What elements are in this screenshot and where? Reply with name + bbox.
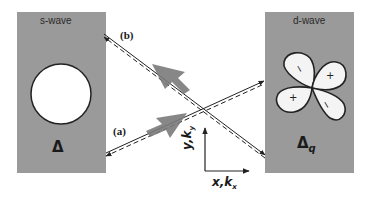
path-a-label: (a) bbox=[113, 126, 126, 137]
d-wave-gap-subscript: q bbox=[309, 143, 316, 154]
s-wave-title: s-wave bbox=[40, 16, 72, 26]
s-wave-gap-circle bbox=[31, 64, 91, 124]
y-axis-label: y,ky bbox=[181, 126, 193, 150]
coordinate-axes bbox=[205, 128, 249, 171]
path-b-label: (b) bbox=[120, 30, 133, 41]
diagram-canvas bbox=[0, 0, 371, 201]
d-wave-gap-symbol: Δ bbox=[297, 134, 309, 152]
x-axis-label: x,kx bbox=[212, 176, 237, 188]
lobe-sign-upper-right: + bbox=[326, 71, 334, 81]
d-wave-gap-label: Δq bbox=[297, 135, 316, 151]
lobe-sign-lower-left: + bbox=[289, 93, 297, 103]
d-wave-title: d-wave bbox=[293, 16, 325, 26]
path-b-momentum-arrow bbox=[152, 64, 190, 94]
s-wave-gap-symbol: Δ bbox=[52, 140, 64, 155]
